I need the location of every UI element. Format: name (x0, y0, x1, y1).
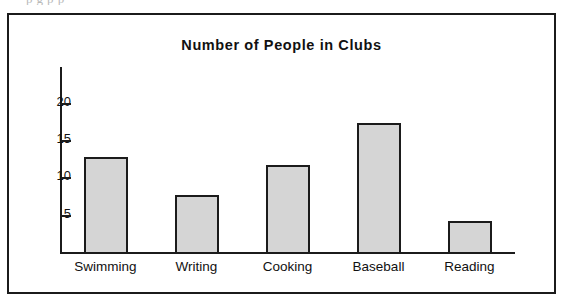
y-tick-mark (62, 215, 71, 217)
y-tick-mark (62, 103, 71, 105)
category-label-baseball: Baseball (333, 259, 424, 274)
y-tick-label: 5 (41, 206, 71, 221)
plot-area: 5101520 SwimmingWritingCookingBaseballRe… (9, 15, 554, 292)
bar-baseball (357, 123, 401, 254)
category-label-cooking: Cooking (242, 259, 333, 274)
category-label-swimming: Swimming (60, 259, 151, 274)
y-tick-label: 20 (41, 94, 71, 109)
figure-frame: Number of People in Clubs 5101520 Swimmi… (7, 13, 556, 294)
scan-artifact-text: p g p p (0, 0, 572, 5)
bar-reading (448, 221, 492, 254)
y-tick-10: 10 (9, 177, 71, 179)
y-tick-mark (62, 177, 71, 179)
y-tick-label: 10 (41, 168, 71, 183)
category-label-writing: Writing (151, 259, 242, 274)
y-tick-mark (62, 140, 71, 142)
category-label-reading: Reading (424, 259, 515, 274)
y-tick-label: 15 (41, 131, 71, 146)
y-tick-20: 20 (9, 103, 71, 105)
bar-swimming (84, 157, 128, 254)
bar-writing (175, 195, 219, 254)
bar-cooking (266, 165, 310, 254)
y-tick-5: 5 (9, 215, 71, 217)
y-tick-15: 15 (9, 140, 71, 142)
